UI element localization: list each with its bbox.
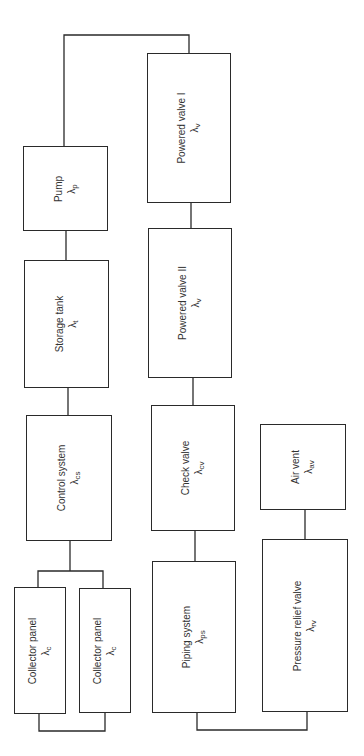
pump-block: Pumpλp: [23, 146, 108, 231]
block-name: Control system: [56, 445, 67, 512]
block-name: Air vent: [290, 450, 301, 484]
pressure-relief-valve-block: Pressure relief valveλrv: [262, 539, 348, 712]
block-name: Storage tank: [53, 296, 64, 353]
block-name: Piping system: [181, 606, 192, 668]
control-system-block: Control systemλcs: [26, 415, 112, 541]
collector-panel-2-block: Collector panelλc: [79, 588, 131, 713]
collector-panel-1-block: Collector panelλc: [14, 587, 66, 714]
powered-valve-1-block: Powered valve Iλv: [147, 53, 231, 203]
piping-system-block: Piping systemλps: [152, 561, 236, 713]
block-name: Pump: [52, 175, 63, 201]
powered-valve-2-block: Powered valve IIλv: [148, 228, 232, 378]
check-valve-block: Check valveλcv: [151, 405, 235, 531]
block-name: Pressure relief valve: [292, 580, 303, 671]
block-name: Powered valve II: [177, 266, 188, 340]
storage-tank-block: Storage tankλt: [24, 260, 109, 388]
block-name: Collector panel: [27, 617, 38, 684]
block-name: Collector panel: [92, 617, 103, 684]
block-name: Check valve: [180, 441, 191, 495]
block-name: Powered valve I: [176, 92, 187, 163]
air-vent-block: Air ventλav: [260, 424, 346, 510]
